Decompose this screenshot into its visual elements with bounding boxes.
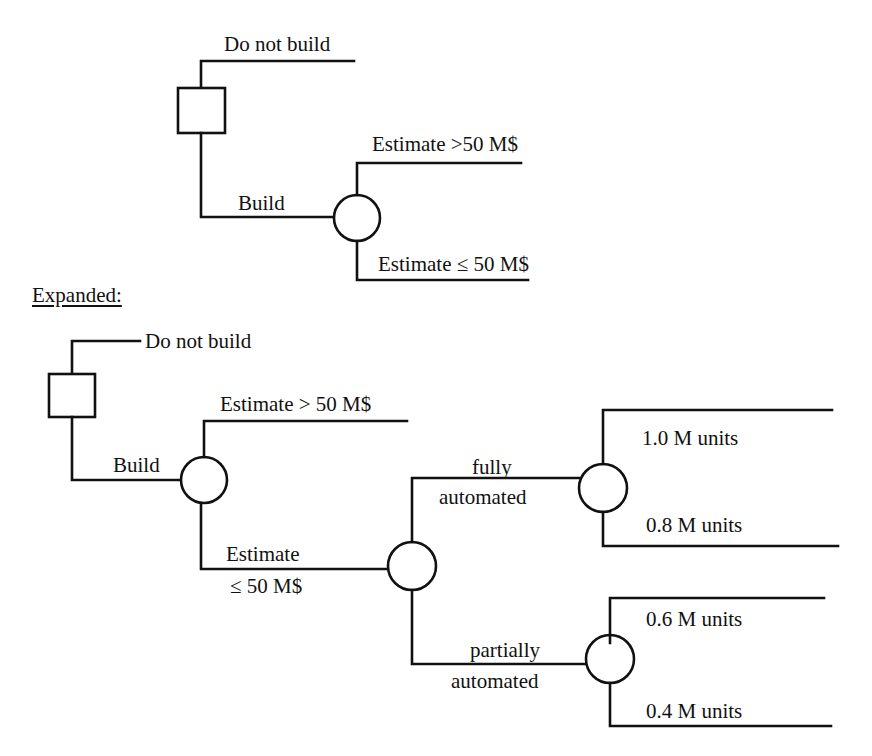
decision-node-square [178, 88, 225, 133]
label-fully-automated: automated [439, 487, 526, 508]
branch-estimate-high [357, 163, 521, 195]
expanded-heading: Expanded: [32, 285, 122, 306]
simple-tree [178, 61, 528, 280]
label-do-not-build: Do not build [145, 331, 251, 352]
label-estimate-high: Estimate > 50 M$ [220, 394, 371, 415]
branch-do-not-build [72, 341, 140, 374]
label-0-4-m-units: 0.4 M units [646, 701, 742, 722]
chance-node-automation [388, 542, 436, 590]
label-estimate-low: Estimate ≤ 50 M$ [378, 254, 529, 275]
label-estimate-low-line1: Estimate [226, 544, 299, 565]
label-build: Build [238, 193, 285, 214]
label-estimate-low-line2: ≤ 50 M$ [230, 576, 302, 597]
branch-estimate-high [204, 421, 407, 457]
label-build: Build [113, 455, 160, 476]
label-estimate-high: Estimate >50 M$ [372, 134, 518, 155]
label-fully: fully [472, 457, 512, 478]
chance-node-circle [334, 195, 380, 241]
branch-do-not-build [201, 61, 354, 88]
chance-node-units-fully [579, 464, 627, 512]
label-partially-automated: automated [451, 671, 538, 692]
label-1-0-m-units: 1.0 M units [642, 428, 738, 449]
label-partially: partially [470, 640, 540, 661]
chance-node-estimate [181, 457, 227, 503]
label-0-6-m-units: 0.6 M units [646, 609, 742, 630]
decision-tree-diagram [0, 0, 872, 756]
label-0-8-m-units: 0.8 M units [646, 515, 742, 536]
label-do-not-build: Do not build [224, 34, 330, 55]
decision-node-square [49, 374, 95, 417]
